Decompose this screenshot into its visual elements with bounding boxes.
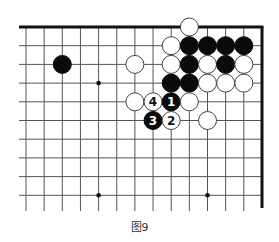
black-stone (53, 55, 71, 73)
white-stone (180, 93, 198, 111)
white-stone: 4 (144, 93, 162, 111)
white-stone (235, 55, 253, 73)
star-point (96, 193, 101, 198)
white-stone (126, 55, 144, 73)
black-stone: 1 (162, 93, 180, 111)
white-stone (180, 18, 198, 36)
move-number: 3 (149, 114, 157, 128)
black-stone (180, 55, 198, 73)
white-stone (199, 55, 217, 73)
white-stone (162, 55, 180, 73)
star-point (96, 81, 101, 86)
go-board: 4132 (0, 0, 279, 242)
white-stone: 2 (162, 112, 180, 130)
white-stone (126, 93, 144, 111)
go-board-diagram: 4132 图9 (0, 0, 279, 242)
move-number: 2 (167, 114, 175, 128)
black-stone (180, 37, 198, 55)
move-number: 1 (167, 95, 175, 109)
white-stone (235, 74, 253, 92)
white-stone (199, 112, 217, 130)
black-stone (162, 74, 180, 92)
black-stone (180, 74, 198, 92)
white-stone (217, 74, 235, 92)
star-point (205, 193, 210, 198)
black-stone (235, 37, 253, 55)
figure-caption: 图9 (0, 218, 279, 234)
white-stone (162, 37, 180, 55)
black-stone (217, 37, 235, 55)
white-stone (199, 74, 217, 92)
black-stone (217, 55, 235, 73)
black-stone: 3 (144, 112, 162, 130)
black-stone (199, 37, 217, 55)
move-number: 4 (149, 95, 157, 109)
